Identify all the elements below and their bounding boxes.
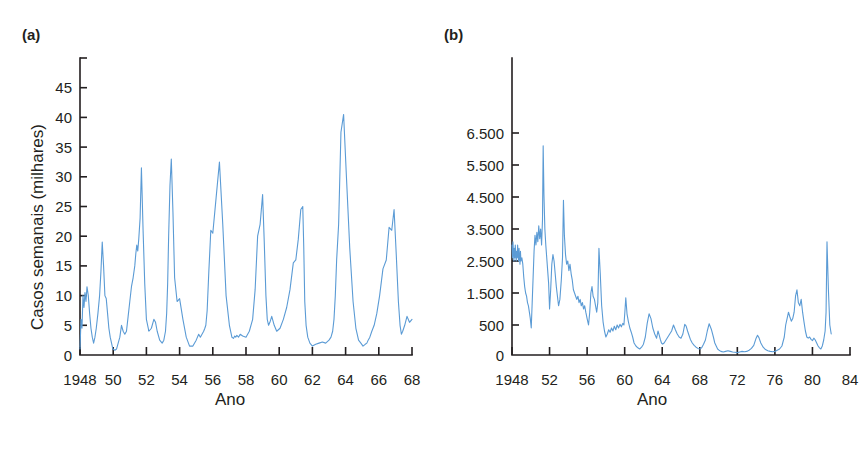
x-tick-label: 56: [579, 371, 596, 388]
y-tick-label: 30: [55, 168, 72, 185]
y-tick-label: 0: [496, 347, 504, 364]
series-line: [80, 114, 412, 350]
x-tick-label: 60: [271, 371, 288, 388]
y-tick-label: 2.500: [466, 253, 504, 270]
y-tick-label: 1.500: [466, 285, 504, 302]
y-tick-label: 5.500: [466, 157, 504, 174]
x-tick-label: 52: [138, 371, 155, 388]
x-tick-label: 84: [842, 371, 859, 388]
y-tick-label: 40: [55, 109, 72, 126]
y-tick-label: 5: [64, 317, 72, 334]
x-tick-label: 52: [541, 371, 558, 388]
x-tick-label: 1948: [495, 371, 528, 388]
y-tick-label: 10: [55, 287, 72, 304]
x-tick-label: 58: [238, 371, 255, 388]
panel-a: (a) Casos semanais (milhares) Ano 051015…: [0, 0, 432, 454]
x-tick-label: 1948: [63, 371, 96, 388]
y-tick-label: 35: [55, 139, 72, 156]
y-tick-label: 15: [55, 257, 72, 274]
panel-b-plot: 05001.5002.5003.5004.5005.5006.500194852…: [432, 0, 865, 454]
panel-b: (b) Casos Ano 05001.5002.5003.5004.5005.…: [432, 0, 865, 454]
x-tick-label: 62: [304, 371, 321, 388]
y-tick-label: 45: [55, 79, 72, 96]
panel-a-plot: 0510152025303540451948505254565860626466…: [0, 0, 432, 454]
x-tick-label: 50: [105, 371, 122, 388]
x-tick-label: 66: [370, 371, 387, 388]
y-tick-label: 4.500: [466, 189, 504, 206]
x-tick-label: 60: [616, 371, 633, 388]
y-tick-label: 6.500: [466, 125, 504, 142]
y-tick-label: 20: [55, 228, 72, 245]
y-tick-label: 3.500: [466, 221, 504, 238]
y-tick-label: 25: [55, 198, 72, 215]
figure-container: (a) Casos semanais (milhares) Ano 051015…: [0, 0, 865, 454]
x-tick-label: 68: [404, 371, 421, 388]
series-line: [512, 146, 831, 353]
x-tick-label: 56: [204, 371, 221, 388]
x-tick-label: 76: [767, 371, 784, 388]
x-tick-label: 68: [691, 371, 708, 388]
x-tick-label: 80: [804, 371, 821, 388]
y-tick-label: 0: [64, 347, 72, 364]
x-tick-label: 64: [337, 371, 354, 388]
y-tick-label: 500: [479, 317, 504, 334]
x-tick-label: 72: [729, 371, 746, 388]
x-tick-label: 64: [654, 371, 671, 388]
x-tick-label: 54: [171, 371, 188, 388]
